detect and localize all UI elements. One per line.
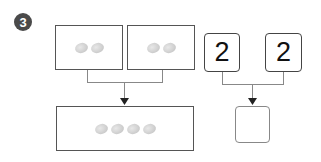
- coin-icon: [141, 122, 156, 135]
- coin-icon: [89, 41, 104, 54]
- connector-line: [283, 72, 284, 84]
- right-number-box: 2: [265, 33, 302, 72]
- left-number-box: 2: [204, 33, 240, 72]
- exercise-number-badge: 3: [14, 13, 32, 31]
- arrow-down-icon: [248, 98, 257, 106]
- arrow-down-icon: [120, 98, 129, 106]
- connector-line: [162, 70, 163, 82]
- coin-icon: [145, 41, 160, 54]
- coin-icon: [93, 122, 108, 135]
- connector-line: [222, 84, 284, 85]
- connector-line: [252, 84, 253, 99]
- connector-line: [87, 70, 88, 82]
- coin-icon: [161, 41, 176, 54]
- right-picture-box: [127, 25, 195, 70]
- connector-line: [87, 82, 163, 83]
- answer-input-box[interactable]: [235, 106, 270, 143]
- connector-line: [222, 72, 223, 84]
- result-picture-box: [56, 106, 194, 151]
- coin-icon: [125, 122, 140, 135]
- coin-icon: [73, 41, 88, 54]
- left-picture-box: [55, 25, 123, 70]
- coin-icon: [109, 122, 124, 135]
